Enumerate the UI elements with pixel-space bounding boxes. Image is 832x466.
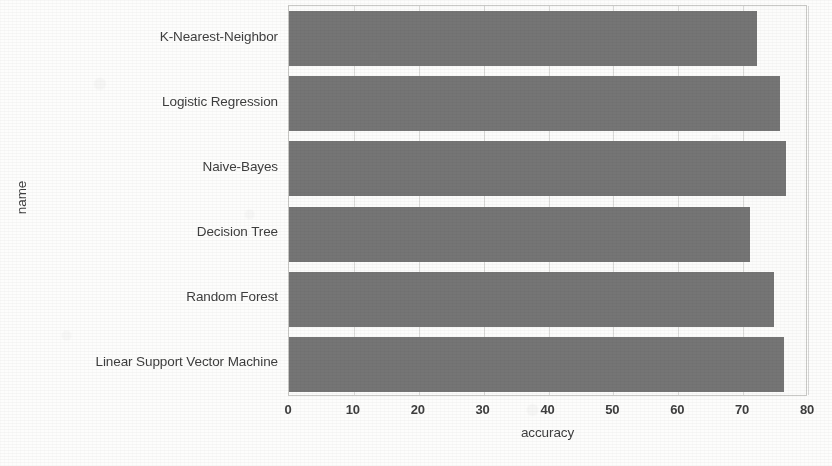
x-axis-tick-label: 70 — [722, 402, 762, 417]
y-axis-tick-label: Linear Support Vector Machine — [96, 354, 278, 369]
y-axis-title: name — [14, 168, 29, 228]
x-axis-title: accuracy — [288, 425, 807, 440]
y-axis-tick-label: Decision Tree — [197, 224, 278, 239]
bar — [289, 76, 780, 131]
bar — [289, 11, 757, 66]
bar — [289, 272, 774, 327]
bar — [289, 207, 750, 262]
y-axis-tick-label: Naive-Bayes — [203, 159, 278, 174]
y-axis-tick-label: K-Nearest-Neighbor — [160, 29, 278, 44]
plot-area — [288, 5, 807, 396]
x-axis-tick-label: 60 — [657, 402, 697, 417]
y-axis-tick-label: Random Forest — [186, 289, 278, 304]
x-axis-tick-label: 40 — [528, 402, 568, 417]
bar — [289, 141, 786, 196]
x-axis-tick-label: 30 — [463, 402, 503, 417]
bar — [289, 337, 784, 392]
x-axis-tick-label: 20 — [398, 402, 438, 417]
x-axis-tick-label: 80 — [787, 402, 827, 417]
x-axis-tick-label: 0 — [268, 402, 308, 417]
x-axis-tick-label: 10 — [333, 402, 373, 417]
y-axis-tick-labels: K-Nearest-NeighborLogistic RegressionNai… — [40, 0, 278, 466]
y-axis-tick-label: Logistic Regression — [162, 94, 278, 109]
x-axis-tick-label: 50 — [592, 402, 632, 417]
bar-chart-figure: K-Nearest-NeighborLogistic RegressionNai… — [0, 0, 832, 466]
gridline — [808, 6, 809, 395]
